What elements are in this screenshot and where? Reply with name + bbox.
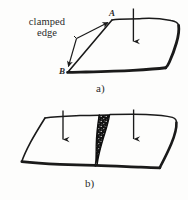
annotation-clamped-edge: clamped edge [18, 16, 76, 39]
annotation-clamped-edge-line1: clamped [29, 16, 65, 27]
vertex-label-b: B [59, 67, 65, 77]
panel-a-plate [68, 18, 179, 72]
caption-panel-a: a) [96, 83, 105, 95]
caption-panel-b: b) [85, 178, 94, 190]
annotation-clamped-edge-line2: edge [18, 27, 76, 38]
vertex-label-a: A [109, 9, 115, 19]
crack-wedge [96, 115, 109, 164]
figure-container: clamped edge A B a) b) [0, 0, 188, 200]
